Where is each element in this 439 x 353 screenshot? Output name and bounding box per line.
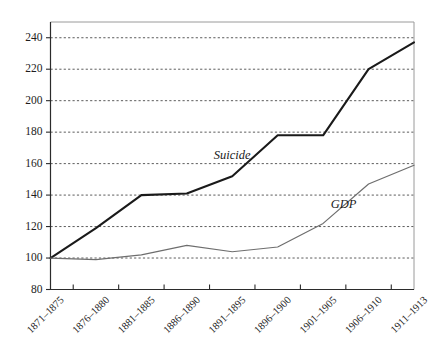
x-tick-label: 1876–1880 bbox=[70, 294, 111, 335]
x-tick-label: 1901–1905 bbox=[297, 294, 338, 335]
y-tick-label: 160 bbox=[25, 157, 43, 169]
series-annotations: SuicideGDP bbox=[214, 148, 357, 211]
x-tick-label: 1891–1895 bbox=[206, 294, 247, 335]
y-tick-label: 180 bbox=[25, 125, 43, 137]
x-tick-label: 1881–1885 bbox=[116, 294, 157, 335]
x-axis-ticks: 1871–18751876–18801881–18851886–18901891… bbox=[25, 285, 430, 336]
y-axis-ticks: 80100120140160180200220240 bbox=[25, 31, 50, 295]
x-tick-label: 1871–1875 bbox=[25, 294, 66, 335]
y-tick-label: 220 bbox=[25, 62, 43, 74]
x-tick-label: 1896–1900 bbox=[252, 294, 293, 335]
series-label-suicide: Suicide bbox=[214, 148, 251, 162]
y-tick-label: 200 bbox=[25, 94, 43, 106]
x-tick-label: 1906–1910 bbox=[343, 294, 384, 335]
y-tick-label: 240 bbox=[25, 31, 43, 43]
x-tick-label: 1886–1890 bbox=[161, 294, 202, 335]
y-tick-label: 100 bbox=[25, 251, 43, 263]
x-tick-label: 1911–1913 bbox=[388, 294, 429, 335]
line-chart: 80100120140160180200220240 1871–18751876… bbox=[0, 0, 439, 353]
y-tick-label: 120 bbox=[25, 220, 43, 232]
chart-container: 80100120140160180200220240 1871–18751876… bbox=[0, 0, 439, 353]
series-label-gdp: GDP bbox=[331, 197, 357, 211]
y-tick-label: 140 bbox=[25, 188, 43, 200]
series-line-gdp bbox=[51, 165, 415, 259]
y-tick-label: 80 bbox=[31, 283, 43, 295]
